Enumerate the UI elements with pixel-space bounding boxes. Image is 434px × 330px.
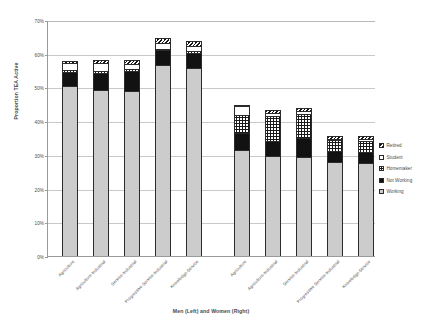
- bar-segment-not-working: [155, 50, 171, 64]
- x-tick-label-0: Agriculture: [57, 259, 75, 277]
- bar-men-3: [155, 38, 171, 256]
- legend-item-student[interactable]: Student: [379, 152, 434, 164]
- y-axis-title: Proportion TEA Active: [13, 31, 19, 151]
- y-tick-label: 40%: [35, 120, 45, 125]
- bar-segment-homemaker: [265, 116, 281, 141]
- stacked-bar-chart: Proportion TEA Active 70%60%50%40%30%20%…: [0, 0, 434, 330]
- legend-label: Working: [387, 189, 404, 194]
- bar-segment-homemaker: [327, 140, 343, 151]
- bar-segment-not-working: [186, 53, 202, 68]
- bar-women-3: [327, 136, 343, 256]
- legend-label: Student: [387, 155, 403, 160]
- chart-legend: RetiredStudentHomemakerNot WorkingWorkin…: [379, 140, 434, 198]
- bar-segment-working: [155, 65, 171, 256]
- bar-segment-working: [234, 150, 250, 256]
- y-tick-label: 20%: [35, 187, 45, 192]
- bar-segment-working: [124, 91, 140, 256]
- bar-segment-student: [93, 63, 109, 71]
- legend-item-not-working[interactable]: Not Working: [379, 175, 434, 187]
- bar-segment-not-working: [234, 133, 250, 150]
- bar-segment-working: [358, 163, 374, 256]
- bar-women-4: [358, 136, 374, 256]
- bars-layer: [48, 21, 375, 256]
- x-tick-label-5: Agriculture: [229, 259, 247, 277]
- x-tick-label-7: Service-Industrial: [282, 259, 310, 287]
- bar-men-4: [186, 41, 202, 256]
- bar-segment-student: [62, 63, 78, 70]
- bar-women-0: [234, 105, 250, 256]
- x-tick-label-9: Knowledge-Service: [341, 259, 371, 289]
- bar-segment-homemaker: [234, 115, 250, 133]
- bar-segment-working: [296, 157, 312, 256]
- bar-segment-not-working: [124, 71, 140, 91]
- y-tick-label: 60%: [35, 52, 45, 57]
- bar-segment-not-working: [265, 141, 281, 156]
- y-tick-mark: [45, 257, 48, 258]
- bar-segment-not-working: [296, 138, 312, 157]
- bar-segment-homemaker: [358, 141, 374, 151]
- bar-segment-working: [265, 156, 281, 256]
- legend-item-working[interactable]: Working: [379, 186, 434, 198]
- legend-swatch-icon: [379, 189, 384, 194]
- bar-segment-not-working: [327, 151, 343, 162]
- x-axis-title: Men (Left) and Women (Right): [47, 308, 375, 314]
- x-tick-label-6: Agriculture-Industrial: [246, 259, 278, 291]
- y-tick-label: 30%: [35, 153, 45, 158]
- x-axis-tick-labels: AgricultureAgriculture-IndustrialService…: [47, 259, 375, 305]
- y-tick-label: 10%: [35, 221, 45, 226]
- bar-segment-working: [62, 86, 78, 256]
- bar-segment-working: [186, 68, 202, 256]
- x-tick-label-1: Agriculture-Industrial: [74, 259, 106, 291]
- bar-segment-working: [93, 90, 109, 256]
- legend-swatch-icon: [379, 155, 384, 160]
- bar-men-2: [124, 60, 140, 256]
- legend-label: Homemaker: [387, 166, 412, 171]
- plot-area: 70%60%50%40%30%20%10%0%: [47, 21, 375, 257]
- bar-segment-homemaker: [296, 114, 312, 139]
- y-tick-label: 50%: [35, 86, 45, 91]
- bar-men-1: [93, 60, 109, 256]
- y-tick-label: 0%: [37, 255, 44, 260]
- bar-women-2: [296, 108, 312, 256]
- legend-swatch-icon: [379, 166, 384, 171]
- x-tick-label-4: Knowledge-Service: [169, 259, 199, 289]
- bar-segment-not-working: [358, 152, 374, 163]
- x-tick-label-2: Service-Industrial: [110, 259, 138, 287]
- legend-label: Retired: [387, 143, 402, 148]
- bar-women-1: [265, 110, 281, 256]
- legend-label: Not Working: [387, 178, 413, 183]
- bar-men-0: [62, 61, 78, 256]
- bar-segment-not-working: [62, 72, 78, 86]
- bar-segment-student: [234, 106, 250, 116]
- legend-item-retired[interactable]: Retired: [379, 140, 434, 152]
- bar-segment-working: [327, 162, 343, 256]
- bar-segment-not-working: [93, 73, 109, 91]
- legend-swatch-icon: [379, 178, 384, 183]
- legend-item-homemaker[interactable]: Homemaker: [379, 163, 434, 175]
- y-tick-label: 70%: [35, 19, 45, 24]
- legend-swatch-icon: [379, 143, 384, 148]
